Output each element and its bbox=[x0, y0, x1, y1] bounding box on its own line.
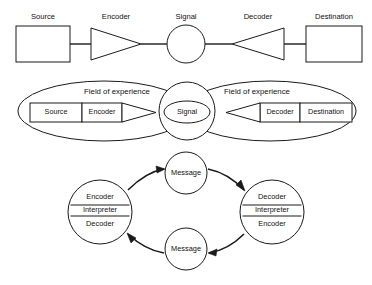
model-one-source-box bbox=[16, 26, 70, 62]
model-two-decoder-arrow bbox=[226, 103, 260, 122]
model-one-group: Source Encoder Signal Decoder Destinatio… bbox=[16, 12, 362, 63]
model-three-arrowhead-bottom-right bbox=[208, 249, 217, 256]
model-three-arrowhead-bottom-left bbox=[127, 233, 136, 243]
model-one-encoder-label: Encoder bbox=[102, 12, 131, 21]
model-two-right-field-label: Field of experience bbox=[224, 87, 290, 96]
model-two-encoder-label: Encoder bbox=[89, 107, 116, 116]
model-one-signal-circle bbox=[167, 25, 205, 63]
model-one-signal-label: Signal bbox=[175, 12, 196, 21]
model-two-group: Field of experience Field of experience … bbox=[18, 81, 356, 141]
model-one-decoder-triangle bbox=[232, 28, 284, 60]
model-two-left-field-label: Field of experience bbox=[84, 87, 150, 96]
model-three-arrowhead-top-right bbox=[236, 180, 245, 191]
model-three-right-node-top-label: Decoder bbox=[258, 192, 286, 201]
model-two-encoder-arrow bbox=[122, 103, 156, 122]
diagram-canvas: Source Encoder Signal Decoder Destinatio… bbox=[0, 0, 372, 285]
model-one-decoder-label: Decoder bbox=[244, 12, 273, 21]
model-three-right-node-middle-label: Interpreter bbox=[255, 205, 290, 214]
model-two-source-label: Source bbox=[45, 107, 68, 116]
model-three-left-node-bottom-label: Decoder bbox=[86, 219, 114, 228]
model-one-destination-label: Destination bbox=[315, 12, 353, 21]
model-one-source-label: Source bbox=[31, 12, 55, 21]
model-one-encoder-triangle bbox=[91, 28, 141, 60]
model-three-left-node-top-label: Encoder bbox=[86, 192, 114, 201]
model-three-left-node-middle-label: Interpreter bbox=[83, 205, 118, 214]
model-one-destination-box bbox=[306, 26, 362, 62]
model-two-destination-label: Destination bbox=[308, 107, 344, 116]
model-three-group: Encoder Interpreter Decoder Decoder Inte… bbox=[68, 152, 304, 270]
model-three-right-node-bottom-label: Encoder bbox=[258, 219, 286, 228]
model-three-message-top-label: Message bbox=[171, 168, 201, 177]
communication-models-figure: Source Encoder Signal Decoder Destinatio… bbox=[0, 0, 372, 285]
model-three-arrowhead-top-left bbox=[156, 166, 165, 173]
model-three-message-bottom-label: Message bbox=[171, 244, 201, 253]
model-two-signal-label: Signal bbox=[177, 107, 197, 116]
model-two-decoder-label: Decoder bbox=[266, 107, 294, 116]
